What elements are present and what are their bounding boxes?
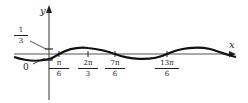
x-tick-label-7pi-6: 7π 6 [105,59,125,78]
y-axis-arrow-icon [46,5,52,13]
x-tick-label-pi-6: π 6 [49,59,69,78]
origin-label: 0 [23,63,29,72]
leader-one-third [30,41,46,49]
y-axis-label: y [40,6,46,16]
y-tick-label-one-third: 1 3 [14,26,28,45]
x-tick-label-2pi-3: 2π 3 [78,59,98,78]
x-axis-label: x [229,40,235,50]
x-tick-label-13pi-6: 13π 6 [155,59,179,78]
sinusoid-plot [0,0,248,103]
